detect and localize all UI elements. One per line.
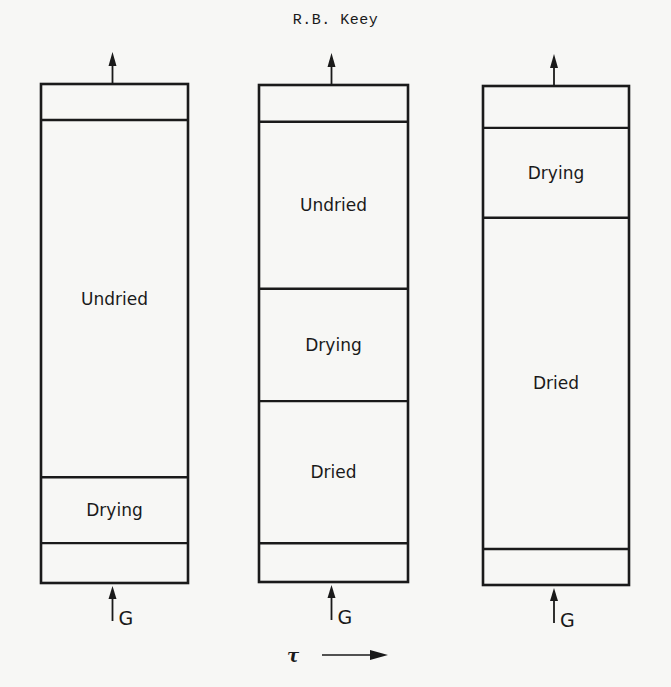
time-axis: τ — [287, 645, 388, 666]
gas-flow-label: G — [338, 606, 353, 628]
bed-drying-diagram: UndriedDryingGUndriedDryingDriedGDryingD… — [0, 0, 671, 687]
outlet-arrow-up-icon — [328, 53, 336, 67]
bed-column-2: UndriedDryingDriedG — [259, 53, 408, 628]
outlet-arrow-up-icon — [109, 52, 117, 66]
column-outline — [483, 86, 629, 585]
gas-flow-label: G — [560, 609, 575, 631]
zone-label-drying: Drying — [528, 163, 584, 183]
zone-label-undried: Undried — [300, 195, 367, 215]
bed-column-3: DryingDriedG — [483, 54, 629, 631]
zone-label-dried: Dried — [533, 373, 579, 393]
inlet-arrow-up-icon — [109, 586, 117, 599]
outlet-arrow-up-icon — [550, 54, 558, 68]
zone-dried: Dried — [483, 218, 629, 394]
zone-label-undried: Undried — [81, 289, 148, 309]
zone-drying: Drying — [483, 128, 629, 183]
time-arrow-head-icon — [370, 650, 388, 660]
zone-drying: Drying — [41, 477, 188, 520]
gas-flow-label: G — [119, 607, 134, 629]
tau-symbol: τ — [287, 645, 300, 666]
inlet-arrow-up-icon — [328, 585, 336, 598]
zone-label-drying: Drying — [305, 335, 361, 355]
zone-label-dried: Dried — [310, 462, 356, 482]
zone-undried: Undried — [41, 120, 188, 309]
zone-drying: Drying — [259, 289, 408, 355]
zone-label-drying: Drying — [86, 500, 142, 520]
zone-dried: Dried — [259, 401, 408, 482]
column-outline — [259, 85, 408, 582]
bed-column-1: UndriedDryingG — [41, 52, 188, 629]
inlet-arrow-up-icon — [550, 588, 558, 601]
zone-undried: Undried — [259, 122, 408, 215]
